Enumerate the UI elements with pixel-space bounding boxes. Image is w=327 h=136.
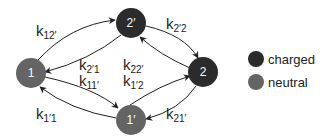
node-2p-label: 2′ [127,16,137,30]
kinetic-scheme-diagram: 1 2′ 2 1′ k12′ k2′2 k2′1 k11′ k22′ k1′2 … [0,0,327,136]
node-1-label: 1 [28,66,35,80]
legend-neutral-label: neutral [268,75,308,90]
rate-k12p: k12′ [36,22,57,41]
legend-charged-label: charged [268,52,315,67]
rate-k21p: k21′ [166,105,187,124]
rate-k2p2: k2′2 [166,15,187,34]
node-2-label: 2 [200,65,207,79]
legend: charged neutral [248,51,315,90]
legend-charged-swatch [248,51,264,67]
node-1: 1 [16,58,46,88]
rate-k1p1: k1′1 [36,105,57,124]
node-1p-label: 1′ [127,113,137,127]
legend-neutral-swatch [248,74,264,90]
node-1p: 1′ [116,105,146,135]
node-2: 2 [188,57,218,87]
node-2p: 2′ [116,8,146,38]
